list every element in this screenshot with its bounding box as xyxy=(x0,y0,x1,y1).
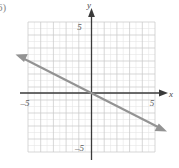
y-axis-tick-positive: 5 xyxy=(77,22,82,32)
graph-svg: 5 –5 –5 5 x y xyxy=(0,0,179,168)
line-arrowhead-right xyxy=(155,124,167,132)
coordinate-plane-figure: 5 –5 –5 5 x y xyxy=(0,0,179,168)
x-axis-arrowhead xyxy=(159,90,168,97)
y-axis xyxy=(88,8,95,160)
y-axis-tick-negative: –5 xyxy=(74,143,85,153)
y-axis-label: y xyxy=(86,0,91,10)
x-axis-label: x xyxy=(168,89,173,99)
x-axis-tick-positive: 5 xyxy=(150,98,155,108)
x-axis-tick-negative: –5 xyxy=(20,98,31,108)
